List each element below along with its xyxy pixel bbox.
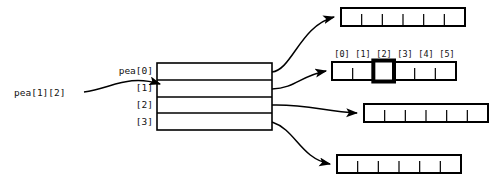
pea-pointer-box	[157, 63, 272, 130]
pointer-row-label-1: [1]	[136, 82, 153, 93]
connector-arrow-1	[272, 71, 326, 89]
pea-element-label: pea[1][2]	[14, 87, 65, 98]
index-header-cell-1: [1]	[355, 49, 370, 59]
connector-arrow-2	[272, 105, 357, 113]
row-array-1-highlight-cell	[373, 61, 394, 82]
connector-arrow-0	[272, 17, 334, 72]
row-array-1	[332, 61, 456, 82]
row-array-2	[364, 104, 488, 122]
index-header-row: [0] [1] [2] [3] [4] [5]	[334, 49, 454, 59]
diagram-canvas: pea[0] [1] [2] [3] pea[1][2] [0] [1] [2]…	[0, 0, 490, 185]
index-header-cell-0: [0]	[334, 49, 349, 59]
index-header-cell-5: [5]	[439, 49, 454, 59]
index-header-cell-4: [4]	[418, 49, 433, 59]
array-pointer-diagram: pea[0] [1] [2] [3] pea[1][2] [0] [1] [2]…	[0, 0, 490, 185]
index-header-cell-2: [2]	[376, 49, 391, 59]
index-header-cell-3: [3]	[397, 49, 412, 59]
row-array-0	[341, 8, 465, 26]
pointer-row-label-3: [3]	[136, 116, 153, 127]
pointer-row-label-0: pea[0]	[119, 65, 153, 76]
pointer-row-label-2: [2]	[136, 99, 153, 110]
row-array-3	[337, 155, 461, 173]
connector-arrows	[272, 17, 357, 164]
row-arrays-layer	[332, 8, 488, 173]
connector-arrow-3	[272, 122, 330, 164]
